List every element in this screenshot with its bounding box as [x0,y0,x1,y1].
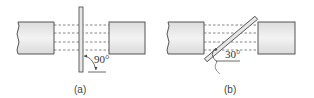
left-block-b [167,22,204,54]
right-block-a [109,22,145,54]
caption-a: (a) [74,84,86,95]
right-block-b [258,22,295,54]
panel-a [17,7,145,72]
left-block-a [17,22,54,54]
caption-b: (b) [224,84,236,95]
plate-vertical [79,7,83,72]
angle-label-b: 30° [225,48,240,60]
diagram-canvas [0,0,314,98]
angle-label-a: 90° [94,53,109,65]
panel-b [167,16,295,74]
